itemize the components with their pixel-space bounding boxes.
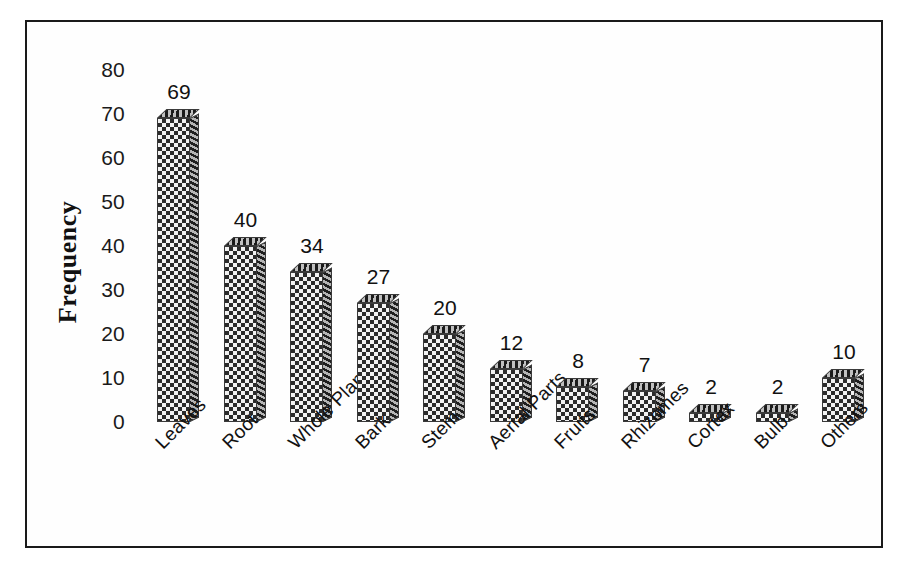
bar-value-label: 69 [149, 80, 209, 104]
bar-front-face [357, 303, 390, 422]
bar-value-label: 8 [548, 349, 608, 373]
bar-side-face [257, 242, 266, 422]
bar-front-face [224, 246, 257, 422]
bar-bark: 27 [357, 291, 400, 422]
bar-value-label: 40 [216, 208, 276, 232]
bar-side-face [190, 114, 199, 422]
plot-area: Frequency 01020304050607080 69Leaves40Ro… [27, 22, 885, 550]
bars-layer: 69Leaves40Root34Whole Plant27Bark20Stem1… [27, 22, 885, 550]
bar-value-label: 2 [681, 375, 741, 399]
bar-side-face [456, 330, 465, 422]
bar-front-face [157, 118, 190, 422]
bar-value-label: 27 [349, 265, 409, 289]
bar-value-label: 12 [482, 331, 542, 355]
bar-side-face [390, 299, 399, 422]
bar-stem: 20 [423, 322, 466, 422]
bar-value-label: 2 [748, 375, 808, 399]
bar-front-face [290, 272, 323, 422]
bar-value-label: 20 [415, 296, 475, 320]
bar-leaves: 69 [157, 106, 200, 422]
chart-figure-frame: Frequency 01020304050607080 69Leaves40Ro… [25, 20, 883, 548]
bar-value-label: 10 [814, 340, 874, 364]
bar-root: 40 [224, 234, 267, 422]
bar-value-label: 7 [615, 353, 675, 377]
figure-caption-partial [25, 556, 883, 570]
bar-value-label: 34 [282, 234, 342, 258]
